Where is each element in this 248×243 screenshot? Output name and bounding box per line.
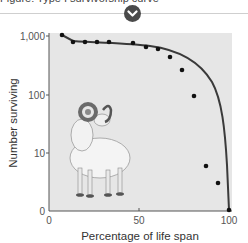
- y-tick-0: 0: [39, 206, 45, 217]
- x-tick-50: 50: [133, 215, 145, 226]
- x-tick-0: 0: [46, 215, 52, 226]
- x-axis-label: Percentage of life span: [81, 230, 199, 242]
- y-tick-100: 100: [28, 90, 45, 101]
- y-ticks: 1,000 100 10 0: [20, 31, 49, 217]
- y-tick-10: 10: [34, 148, 46, 159]
- y-axis-label: Number surviving: [7, 78, 19, 167]
- y-tick-1000: 1,000: [20, 31, 45, 42]
- x-tick-100: 100: [221, 215, 238, 226]
- survivorship-chart: 1,000 100 10 0 0 50 100 Percentage of li…: [0, 0, 248, 243]
